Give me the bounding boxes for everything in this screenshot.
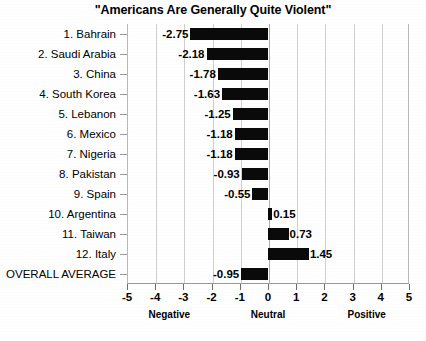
bar-value-label: 0.15 bbox=[273, 204, 335, 224]
chart-row: 1. Bahrain-2.75 bbox=[0, 24, 426, 44]
bar-value-label: -0.95 bbox=[177, 264, 239, 284]
chart-row: 10. Argentina0.15 bbox=[0, 204, 426, 224]
axis-tickmark bbox=[324, 284, 325, 290]
category-label: 9. Spain bbox=[0, 184, 116, 204]
category-label: 2. Saudi Arabia bbox=[0, 44, 116, 64]
bar-value-label: 1.45 bbox=[310, 244, 372, 264]
category-tick bbox=[120, 154, 127, 155]
chart-row: 9. Spain-0.55 bbox=[0, 184, 426, 204]
axis-tickmark bbox=[212, 284, 213, 290]
axis-zone-label: Negative bbox=[124, 309, 214, 320]
bar bbox=[190, 28, 268, 40]
bar-value-label: -0.93 bbox=[178, 164, 240, 184]
axis-tickmark bbox=[127, 284, 128, 290]
axis-tickmark bbox=[296, 284, 297, 290]
category-tick bbox=[120, 94, 127, 95]
axis-zone-label: Positive bbox=[322, 309, 412, 320]
chart-row: 2. Saudi Arabia-2.18 bbox=[0, 44, 426, 64]
chart-row: OVERALL AVERAGE-0.95 bbox=[0, 264, 426, 284]
category-tick bbox=[120, 174, 127, 175]
category-tick bbox=[120, 74, 127, 75]
category-label: 8. Pakistan bbox=[0, 164, 116, 184]
category-label: 1. Bahrain bbox=[0, 24, 116, 44]
category-label: OVERALL AVERAGE bbox=[0, 264, 116, 284]
bar-value-label: -1.18 bbox=[171, 144, 233, 164]
category-tick bbox=[120, 274, 127, 275]
bar-value-label: -1.78 bbox=[154, 64, 216, 84]
category-tick bbox=[120, 254, 127, 255]
bar bbox=[233, 108, 268, 120]
bar-value-label: -0.55 bbox=[188, 184, 250, 204]
axis-tickmark bbox=[409, 284, 410, 290]
category-label: 3. China bbox=[0, 64, 116, 84]
category-label: 10. Argentina bbox=[0, 204, 116, 224]
chart-row: 12. Italy1.45 bbox=[0, 244, 426, 264]
category-tick bbox=[120, 194, 127, 195]
category-tick bbox=[120, 134, 127, 135]
category-label: 6. Mexico bbox=[0, 124, 116, 144]
category-tick bbox=[120, 54, 127, 55]
chart-row: 8. Pakistan-0.93 bbox=[0, 164, 426, 184]
bar bbox=[222, 88, 268, 100]
category-tick bbox=[120, 114, 127, 115]
bar bbox=[242, 168, 268, 180]
bar bbox=[235, 148, 268, 160]
bar bbox=[268, 208, 272, 220]
category-label: 7. Nigeria bbox=[0, 144, 116, 164]
bar-value-label: 0.73 bbox=[290, 224, 352, 244]
bar-chart: "Americans Are Generally Quite Violent" … bbox=[0, 0, 426, 341]
chart-row: 6. Mexico-1.18 bbox=[0, 124, 426, 144]
axis-tickmark bbox=[155, 284, 156, 290]
chart-row: 5. Lebanon-1.25 bbox=[0, 104, 426, 124]
bar-value-label: -2.75 bbox=[126, 24, 188, 44]
axis-tick-label: 5 bbox=[389, 291, 426, 303]
axis-zone-label: Neutral bbox=[223, 309, 313, 320]
bar bbox=[207, 48, 268, 60]
bar bbox=[218, 68, 268, 80]
bar bbox=[268, 248, 309, 260]
category-tick bbox=[120, 214, 127, 215]
axis-tickmark bbox=[183, 284, 184, 290]
bar bbox=[241, 268, 268, 280]
bar-value-label: -1.63 bbox=[158, 84, 220, 104]
category-label: 5. Lebanon bbox=[0, 104, 116, 124]
category-label: 4. South Korea bbox=[0, 84, 116, 104]
bar bbox=[252, 188, 268, 200]
bar-value-label: -1.18 bbox=[171, 124, 233, 144]
axis-tickmark bbox=[381, 284, 382, 290]
x-axis-ticks bbox=[127, 284, 409, 291]
axis-tickmark bbox=[240, 284, 241, 290]
axis-tickmark bbox=[353, 284, 354, 290]
category-tick bbox=[120, 234, 127, 235]
chart-row: 3. China-1.78 bbox=[0, 64, 426, 84]
category-label: 12. Italy bbox=[0, 244, 116, 264]
bar bbox=[235, 128, 268, 140]
bar bbox=[268, 228, 289, 240]
chart-row: 7. Nigeria-1.18 bbox=[0, 144, 426, 164]
chart-row: 4. South Korea-1.63 bbox=[0, 84, 426, 104]
axis-tickmark bbox=[268, 284, 269, 290]
chart-row: 11. Taiwan0.73 bbox=[0, 224, 426, 244]
bar-value-label: -2.18 bbox=[143, 44, 205, 64]
bar-value-label: -1.25 bbox=[169, 104, 231, 124]
chart-title: "Americans Are Generally Quite Violent" bbox=[0, 3, 426, 17]
category-label: 11. Taiwan bbox=[0, 224, 116, 244]
